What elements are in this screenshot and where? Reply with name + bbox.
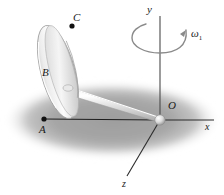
disk-hub <box>63 85 73 91</box>
label-axis-x: x <box>205 122 209 132</box>
point-c-marker <box>69 23 74 28</box>
label-axis-y: y <box>147 4 152 15</box>
omega-symbol: ω <box>191 27 199 39</box>
label-point-a: A <box>39 124 46 135</box>
label-point-c: C <box>73 12 80 23</box>
label-origin: O <box>168 100 176 111</box>
point-a-marker <box>41 116 46 121</box>
omega-subscript: 1 <box>199 34 203 42</box>
label-axis-z: z <box>122 179 126 189</box>
rotation-arc-path <box>132 24 186 53</box>
rotation-arrowhead <box>180 30 186 37</box>
origin-ball-joint <box>155 115 165 125</box>
rotation-arrow <box>132 24 186 53</box>
label-angular-velocity: ω1 <box>191 28 202 42</box>
figure-canvas: A B C O x y z ω1 <box>0 0 224 195</box>
label-point-b: B <box>42 67 49 78</box>
